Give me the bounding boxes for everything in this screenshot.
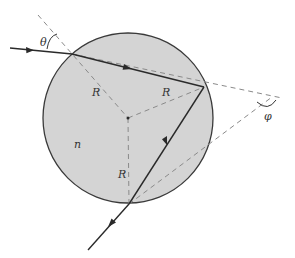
- radius-label-entry: R: [91, 86, 100, 99]
- radius-label-exit: R: [117, 168, 126, 181]
- radius-label-reflection: R: [161, 86, 170, 99]
- sphere-ray-diagram: θ φ R R R n: [0, 0, 295, 258]
- theta-angle-arc: [47, 34, 57, 49]
- phi-label: φ: [264, 110, 272, 123]
- arrow-icon: [26, 47, 34, 53]
- refractive-index-label: n: [74, 138, 81, 151]
- theta-label: θ: [40, 36, 47, 49]
- outgoing-ray: [88, 204, 129, 250]
- sphere-center: [127, 117, 130, 120]
